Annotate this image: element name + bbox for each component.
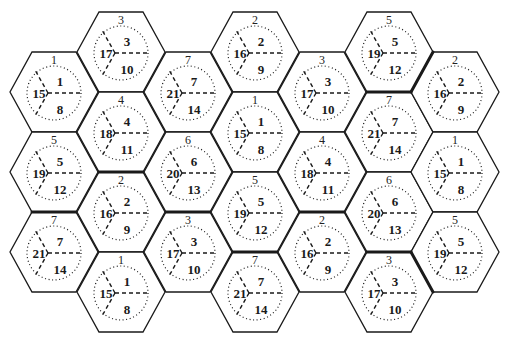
- sector-label-left: 21: [368, 126, 381, 141]
- sector-label-bottom-right: 14: [255, 302, 269, 317]
- sector-label-left: 21: [167, 86, 180, 101]
- cell-id-label: 3: [319, 53, 325, 67]
- sector-label-left: 19: [434, 246, 448, 261]
- sector-label-top-right: 2: [124, 194, 131, 209]
- sector-label-bottom-right: 13: [188, 182, 202, 197]
- cell-id-label: 1: [252, 93, 258, 107]
- sector-label-left: 17: [100, 46, 114, 61]
- sector-label-bottom-right: 9: [124, 222, 131, 237]
- cell-id-label: 4: [319, 133, 325, 147]
- sector-label-top-right: 5: [392, 34, 399, 49]
- sector-label-left: 20: [368, 206, 381, 221]
- cell-id-label: 2: [319, 213, 325, 227]
- sector-label-left: 18: [100, 126, 114, 141]
- sector-label-bottom-right: 12: [255, 222, 268, 237]
- cell-id-label: 7: [252, 253, 258, 267]
- cell-id-label: 5: [386, 13, 392, 27]
- sector-label-bottom-right: 8: [57, 102, 64, 117]
- sector-label-top-right: 3: [124, 34, 131, 49]
- cell-id-label: 3: [386, 253, 392, 267]
- sector-label-bottom-right: 9: [258, 62, 265, 77]
- sector-label-bottom-right: 12: [389, 62, 402, 77]
- sector-label-left: 20: [167, 166, 180, 181]
- sector-label-top-right: 1: [458, 154, 465, 169]
- sector-label-top-right: 4: [325, 154, 332, 169]
- sector-label-top-right: 2: [258, 34, 265, 49]
- sector-label-top-right: 7: [57, 234, 64, 249]
- sector-label-bottom-right: 8: [258, 142, 265, 157]
- sector-label-left: 17: [368, 286, 382, 301]
- sector-label-top-right: 3: [392, 274, 399, 289]
- sector-label-bottom-right: 14: [54, 262, 68, 277]
- sector-label-left: 15: [434, 166, 448, 181]
- sector-label-left: 16: [234, 46, 248, 61]
- sector-label-left: 16: [301, 246, 315, 261]
- sector-label-top-right: 7: [392, 114, 399, 129]
- cell-id-label: 2: [252, 13, 258, 27]
- cell-id-label: 5: [452, 213, 458, 227]
- sector-label-top-right: 5: [57, 154, 64, 169]
- sector-label-bottom-right: 10: [188, 262, 201, 277]
- hex-cells: 1115855191277211433171044181122169111587…: [10, 12, 499, 332]
- cell-id-label: 6: [386, 173, 392, 187]
- sector-label-bottom-right: 12: [455, 262, 468, 277]
- sector-label-bottom-right: 11: [322, 182, 334, 197]
- sector-label-bottom-right: 10: [121, 62, 134, 77]
- cell-id-label: 2: [452, 53, 458, 67]
- sector-label-left: 19: [234, 206, 248, 221]
- sector-label-bottom-right: 10: [389, 302, 402, 317]
- sector-label-top-right: 1: [258, 114, 265, 129]
- sector-label-top-right: 7: [258, 274, 265, 289]
- sector-label-left: 18: [301, 166, 315, 181]
- cell-id-label: 5: [51, 133, 57, 147]
- cell-id-label: 7: [51, 213, 57, 227]
- sector-label-left: 15: [100, 286, 114, 301]
- sector-label-top-right: 1: [57, 74, 64, 89]
- sector-label-bottom-right: 10: [322, 102, 335, 117]
- sector-label-left: 21: [33, 246, 46, 261]
- sector-label-top-right: 3: [325, 74, 332, 89]
- sector-label-bottom-right: 8: [458, 182, 465, 197]
- sector-label-top-right: 5: [258, 194, 265, 209]
- sector-label-top-right: 3: [191, 234, 198, 249]
- sector-label-bottom-right: 8: [124, 302, 131, 317]
- sector-label-bottom-right: 12: [54, 182, 67, 197]
- sector-label-bottom-right: 9: [458, 102, 465, 117]
- sector-label-bottom-right: 14: [188, 102, 202, 117]
- sector-label-top-right: 6: [191, 154, 198, 169]
- cell-id-label: 1: [51, 53, 57, 67]
- hex-cell-diagram: 1115855191277211433171044181122169111587…: [0, 0, 510, 345]
- sector-label-bottom-right: 11: [121, 142, 133, 157]
- cell-id-label: 7: [185, 53, 191, 67]
- cell-id-label: 5: [252, 173, 258, 187]
- cell-id-label: 1: [118, 253, 124, 267]
- sector-label-bottom-right: 14: [389, 142, 403, 157]
- sector-label-left: 21: [234, 286, 247, 301]
- cell-id-label: 1: [452, 133, 458, 147]
- sector-label-top-right: 4: [124, 114, 131, 129]
- sector-label-bottom-right: 9: [325, 262, 332, 277]
- cell-id-label: 6: [185, 133, 191, 147]
- sector-label-left: 19: [368, 46, 382, 61]
- sector-label-left: 19: [33, 166, 47, 181]
- sector-label-left: 15: [234, 126, 248, 141]
- cell-id-label: 2: [118, 173, 124, 187]
- sector-label-top-right: 6: [392, 194, 399, 209]
- cell-id-label: 4: [118, 93, 124, 107]
- cell-id-label: 7: [386, 93, 392, 107]
- sector-label-top-right: 2: [325, 234, 332, 249]
- sector-label-top-right: 2: [458, 74, 465, 89]
- sector-label-left: 17: [167, 246, 181, 261]
- cell-id-label: 3: [118, 13, 124, 27]
- sector-label-top-right: 7: [191, 74, 198, 89]
- cell-id-label: 3: [185, 213, 191, 227]
- sector-label-left: 15: [33, 86, 47, 101]
- sector-label-top-right: 1: [124, 274, 131, 289]
- sector-label-left: 16: [434, 86, 448, 101]
- sector-label-top-right: 5: [458, 234, 465, 249]
- sector-label-left: 16: [100, 206, 114, 221]
- sector-label-left: 17: [301, 86, 315, 101]
- sector-label-bottom-right: 13: [389, 222, 403, 237]
